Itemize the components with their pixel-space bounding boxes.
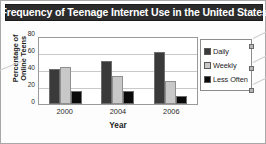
y-tick-label: 0 <box>31 99 35 106</box>
selection-handle-top[interactable] <box>249 44 254 49</box>
bar[interactable] <box>49 69 60 104</box>
legend-item[interactable]: Weekly <box>204 58 248 72</box>
legend-swatch-icon <box>204 62 211 69</box>
leader-line-right-1 <box>253 31 266 39</box>
legend-label: Weekly <box>213 61 237 70</box>
bar[interactable] <box>176 96 187 105</box>
y-tick-label: 80 <box>28 31 35 38</box>
bar[interactable] <box>154 52 165 104</box>
chart-title-bar: Frequency of Teenage Internet Use in the… <box>5 4 263 21</box>
y-tick-label: 40 <box>28 65 35 72</box>
bar-group <box>154 37 187 104</box>
chart-figure: Frequency of Teenage Internet Use in the… <box>0 0 266 144</box>
bar[interactable] <box>60 67 71 104</box>
selection-handle-bottom[interactable] <box>249 88 254 93</box>
y-tick-label: 20 <box>28 82 35 89</box>
legend-label: Daily <box>213 47 229 56</box>
plot-area <box>38 37 198 105</box>
chart-legend[interactable]: DailyWeeklyLess Often <box>200 39 252 91</box>
bar-groups <box>39 37 197 104</box>
legend-swatch-icon <box>204 48 211 55</box>
bar[interactable] <box>112 76 123 104</box>
x-tick-label: 2000 <box>40 107 90 116</box>
bar[interactable] <box>101 61 112 104</box>
leader-line-right-2 <box>253 55 266 63</box>
bar[interactable] <box>165 81 176 104</box>
x-tick-label: 2006 <box>146 107 196 116</box>
legend-item[interactable]: Daily <box>204 44 248 58</box>
bar-group <box>101 37 134 104</box>
leader-line-right-3 <box>253 77 266 85</box>
chart-body: Percentage of Online Teens 020406080 200… <box>1 22 265 143</box>
selection-handle-middle[interactable] <box>249 66 254 71</box>
page-title: Frequency of Teenage Internet Use in the… <box>0 7 266 18</box>
bar[interactable] <box>71 91 82 104</box>
bar-group <box>49 37 82 104</box>
legend-item[interactable]: Less Often <box>204 72 248 86</box>
legend-label: Less Often <box>213 75 248 84</box>
legend-swatch-icon <box>204 76 211 83</box>
x-tick-label: 2004 <box>93 107 143 116</box>
x-axis-title: Year <box>38 121 198 130</box>
y-axis-ticks: 020406080 <box>19 34 35 104</box>
bar[interactable] <box>123 91 134 104</box>
x-axis-ticks: 200020042006 <box>38 107 198 119</box>
y-tick-label: 60 <box>28 48 35 55</box>
